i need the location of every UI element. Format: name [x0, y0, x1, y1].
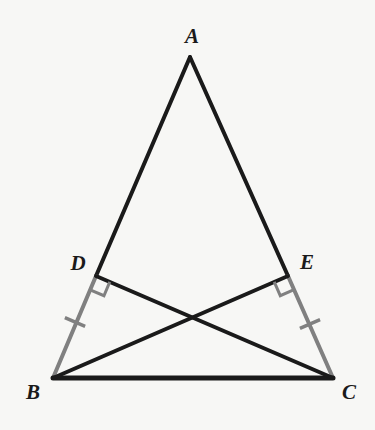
segment-CD — [96, 276, 333, 378]
geometry-figure: A B C D E — [0, 0, 375, 430]
vertex-label-D: D — [69, 251, 85, 275]
segment-AD — [96, 57, 190, 276]
segment-AE — [190, 57, 288, 276]
vertex-label-C: C — [342, 380, 357, 404]
vertex-label-B: B — [25, 380, 40, 404]
vertex-label-A: A — [183, 24, 199, 48]
vertex-label-E: E — [299, 250, 314, 274]
geometry-canvas: A B C D E — [0, 0, 375, 430]
